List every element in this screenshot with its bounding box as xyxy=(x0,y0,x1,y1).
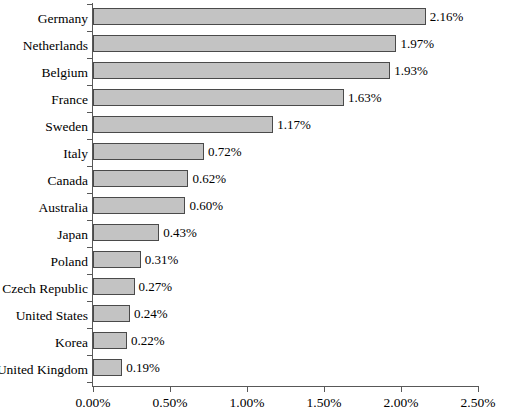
bar-row: France1.63% xyxy=(93,85,478,112)
bar-chart: Germany2.16%Netherlands1.97%Belgium1.93%… xyxy=(0,0,509,419)
plot-area: Germany2.16%Netherlands1.97%Belgium1.93%… xyxy=(93,4,478,386)
value-axis-line xyxy=(93,386,479,387)
bar-value-label: 0.19% xyxy=(126,357,160,378)
value-axis-tick xyxy=(93,386,94,392)
category-label-cell: Korea xyxy=(0,328,88,355)
category-label: Poland xyxy=(0,252,88,271)
bar-value-label: 0.31% xyxy=(145,249,179,270)
bar xyxy=(93,197,185,214)
bar-row: Canada0.62% xyxy=(93,166,478,193)
category-label-cell: Germany xyxy=(0,4,88,31)
bar xyxy=(93,116,273,133)
category-label-cell: United Kingdom xyxy=(0,355,88,382)
category-label-cell: Canada xyxy=(0,166,88,193)
category-label: Canada xyxy=(0,171,88,190)
bar-value-label: 0.27% xyxy=(139,276,173,297)
value-axis-tick xyxy=(170,386,171,392)
category-label: Italy xyxy=(0,144,88,163)
bar xyxy=(93,170,188,187)
value-axis-tick-label: 1.50% xyxy=(284,394,364,412)
value-axis-tick-label: 1.00% xyxy=(207,394,287,412)
bar-row: Germany2.16% xyxy=(93,4,478,31)
category-label-cell: Poland xyxy=(0,247,88,274)
value-axis-tick-label: 0.50% xyxy=(130,394,210,412)
category-label: United Kingdom xyxy=(0,360,88,379)
bar-value-label: 0.24% xyxy=(134,303,168,324)
category-label: Czech Republic xyxy=(0,279,88,298)
value-axis-tick-label: 2.00% xyxy=(361,394,441,412)
bar-row: Japan0.43% xyxy=(93,220,478,247)
bar-value-label: 1.63% xyxy=(348,87,382,108)
category-label-cell: Italy xyxy=(0,139,88,166)
bar-row: Netherlands1.97% xyxy=(93,31,478,58)
category-label-cell: France xyxy=(0,85,88,112)
bar-row: United States0.24% xyxy=(93,301,478,328)
bar-value-label: 2.16% xyxy=(430,6,464,27)
category-label: France xyxy=(0,90,88,109)
category-label-cell: Netherlands xyxy=(0,31,88,58)
value-axis-tick-label: 2.50% xyxy=(438,394,509,412)
bar-value-label: 0.62% xyxy=(192,168,226,189)
category-label-cell: Belgium xyxy=(0,58,88,85)
category-label-cell: Japan xyxy=(0,220,88,247)
category-label: Sweden xyxy=(0,117,88,136)
category-label-cell: Australia xyxy=(0,193,88,220)
bar-row: Czech Republic0.27% xyxy=(93,274,478,301)
bar xyxy=(93,305,130,322)
category-label: United States xyxy=(0,306,88,325)
bar-row: Australia0.60% xyxy=(93,193,478,220)
category-label: Korea xyxy=(0,333,88,352)
bar-row: Italy0.72% xyxy=(93,139,478,166)
bar xyxy=(93,62,390,79)
value-axis-tick xyxy=(247,386,248,392)
bar xyxy=(93,224,159,241)
category-label: Japan xyxy=(0,225,88,244)
category-label-cell: United States xyxy=(0,301,88,328)
value-axis-tick xyxy=(324,386,325,392)
category-label: Australia xyxy=(0,198,88,217)
bar xyxy=(93,35,396,52)
bar xyxy=(93,8,426,25)
bar-value-label: 0.60% xyxy=(189,195,223,216)
bar-row: United Kingdom0.19% xyxy=(93,355,478,382)
bar-value-label: 1.97% xyxy=(400,33,434,54)
value-axis-tick xyxy=(401,386,402,392)
bar-value-label: 0.43% xyxy=(163,222,197,243)
bar xyxy=(93,251,141,268)
category-label-cell: Czech Republic xyxy=(0,274,88,301)
bar xyxy=(93,278,135,295)
category-label: Netherlands xyxy=(0,36,88,55)
bar xyxy=(93,359,122,376)
bar-value-label: 0.22% xyxy=(131,330,165,351)
bar-value-label: 1.17% xyxy=(277,114,311,135)
category-label-cell: Sweden xyxy=(0,112,88,139)
category-label: Germany xyxy=(0,9,88,28)
bar-row: Korea0.22% xyxy=(93,328,478,355)
category-label: Belgium xyxy=(0,63,88,82)
value-axis-tick xyxy=(478,386,479,392)
bar-value-label: 1.93% xyxy=(394,60,428,81)
category-tick xyxy=(87,382,93,383)
bar xyxy=(93,89,344,106)
value-axis-tick-label: 0.00% xyxy=(53,394,133,412)
bar xyxy=(93,332,127,349)
bar xyxy=(93,143,204,160)
bar-row: Sweden1.17% xyxy=(93,112,478,139)
bar-value-label: 0.72% xyxy=(208,141,242,162)
bar-row: Poland0.31% xyxy=(93,247,478,274)
bar-row: Belgium1.93% xyxy=(93,58,478,85)
